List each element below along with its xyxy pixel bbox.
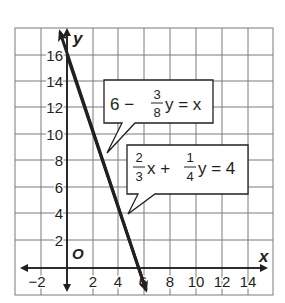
- svg-text:y = 4: y = 4: [198, 159, 235, 178]
- svg-text:x +: x +: [147, 159, 170, 178]
- svg-text:2: 2: [89, 273, 97, 290]
- svg-text:10: 10: [46, 126, 63, 143]
- y-tick-labels: 2 4 6 8 10 12 14 16: [46, 47, 63, 249]
- svg-text:4: 4: [114, 273, 122, 290]
- svg-text:1: 1: [186, 150, 193, 165]
- svg-text:8: 8: [153, 105, 160, 120]
- svg-text:4: 4: [55, 205, 63, 222]
- svg-text:3: 3: [135, 169, 142, 184]
- x-axis-label: x: [258, 247, 270, 266]
- svg-text:12: 12: [214, 273, 231, 290]
- y-axis-label: y: [72, 29, 84, 48]
- svg-text:8: 8: [166, 273, 174, 290]
- svg-text:4: 4: [186, 169, 193, 184]
- svg-text:12: 12: [46, 99, 63, 116]
- coordinate-graph: x y O −2 2 4 6 8 10 12 14 2 4 6 8 10 12 …: [0, 0, 285, 303]
- svg-text:16: 16: [46, 47, 63, 64]
- callout-equation-2: 2 3 x + 1 4 y = 4: [127, 145, 248, 214]
- svg-text:y = x: y = x: [165, 95, 202, 114]
- svg-text:6 −: 6 −: [110, 95, 134, 114]
- origin-label: O: [72, 245, 84, 262]
- svg-text:14: 14: [240, 273, 257, 290]
- svg-text:10: 10: [188, 273, 205, 290]
- callout-equation-1: 6 − 3 8 y = x: [104, 80, 213, 153]
- svg-text:3: 3: [153, 87, 160, 102]
- svg-text:8: 8: [55, 152, 63, 169]
- svg-text:2: 2: [55, 232, 63, 249]
- svg-text:14: 14: [46, 73, 63, 90]
- svg-text:2: 2: [135, 150, 142, 165]
- svg-text:6: 6: [55, 179, 63, 196]
- svg-text:−2: −2: [28, 273, 45, 290]
